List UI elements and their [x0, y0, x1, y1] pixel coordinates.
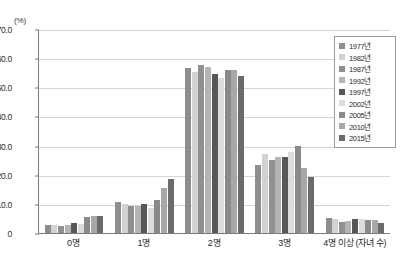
bar [365, 220, 371, 233]
y-axis-tick-label: 40.0 [0, 112, 12, 122]
legend-swatch-icon [339, 54, 345, 60]
legend-item[interactable]: 2010년 [339, 121, 393, 133]
legend-item-label: 1987년 [349, 63, 371, 74]
bar [205, 67, 211, 233]
bar [212, 74, 218, 233]
legend-item[interactable]: 2005년 [339, 109, 393, 121]
y-axis-tick-label: 30.0 [0, 142, 12, 152]
legend-swatch-icon [339, 112, 345, 118]
bar [288, 152, 294, 233]
legend-item-label: 2005년 [349, 109, 371, 120]
bar [84, 217, 90, 233]
x-axis-tick-label: 3명 [249, 236, 319, 249]
bar [45, 225, 51, 233]
x-axis-tick-label: 2명 [179, 236, 249, 249]
bar-chart: (%) 0명1명2명3명4명 이상 (자녀 수) 1977년1982년1987년… [0, 0, 406, 269]
bar [225, 70, 231, 233]
bar [231, 70, 237, 233]
bar [326, 218, 332, 233]
bar [115, 202, 121, 233]
legend: 1977년1982년1987년1992년1997년2002년2005년2010년… [334, 36, 396, 148]
bar [372, 220, 378, 233]
x-axis-tick-label: 0명 [38, 236, 108, 249]
legend-swatch-icon [339, 123, 345, 129]
bar [269, 160, 275, 233]
bar [185, 68, 191, 233]
legend-swatch-icon [339, 77, 345, 83]
bar [238, 76, 244, 233]
legend-swatch-icon [339, 66, 345, 72]
bar [301, 168, 307, 233]
bar [339, 222, 345, 233]
bar [262, 154, 268, 233]
legend-item[interactable]: 1997년 [339, 86, 393, 98]
x-axis-tick-label: 1명 [108, 236, 178, 249]
legend-swatch-icon [339, 100, 345, 106]
bar [378, 223, 384, 233]
y-axis-tick-label: 20.0 [0, 171, 12, 181]
y-axis-unit-label: (%) [14, 16, 26, 25]
bar [128, 206, 134, 233]
bar [51, 225, 57, 233]
legend-swatch-icon [339, 89, 345, 95]
legend-item[interactable]: 1992년 [339, 75, 393, 87]
bar [295, 146, 301, 233]
y-axis-tick-mark [35, 146, 39, 147]
bar [161, 188, 167, 233]
y-axis-tick-label: 70.0 [0, 25, 12, 35]
legend-item-label: 1977년 [349, 40, 371, 51]
legend-item[interactable]: 1977년 [339, 40, 393, 52]
y-axis-tick-mark [35, 30, 39, 31]
legend-item[interactable]: 1987년 [339, 63, 393, 75]
bar [345, 221, 351, 233]
legend-swatch-icon [339, 43, 345, 49]
bar [58, 226, 64, 233]
bar [168, 179, 174, 233]
y-axis-tick-mark [35, 175, 39, 176]
bar [198, 65, 204, 233]
legend-item-label: 1992년 [349, 75, 371, 86]
bar [141, 204, 147, 233]
bar [71, 223, 77, 233]
x-axis-tick-label: 4명 이상 (자녀 수) [320, 236, 390, 249]
bar [282, 157, 288, 233]
bar [91, 216, 97, 233]
legend-item-label: 2010년 [349, 121, 371, 132]
x-axis-tick-label-text: 4명 이상 [323, 238, 353, 248]
legend-item[interactable]: 1982년 [339, 52, 393, 64]
y-axis-tick-label: 60.0 [0, 54, 12, 64]
legend-item-label: 1982년 [349, 52, 371, 63]
y-axis-tick-label: 0 [0, 229, 12, 239]
x-axis-title: (자녀 수) [353, 238, 386, 248]
bar [135, 206, 141, 233]
bar [308, 177, 314, 233]
y-axis-tick-mark [35, 204, 39, 205]
bar [352, 219, 358, 233]
bar [255, 165, 261, 233]
legend-item-label: 2015년 [349, 132, 371, 143]
legend-item-label: 1997년 [349, 86, 371, 97]
legend-item-label: 2002년 [349, 98, 371, 109]
y-axis-tick-mark [35, 59, 39, 60]
bar [332, 219, 338, 233]
bar [148, 208, 154, 233]
bar [122, 204, 128, 233]
bar [65, 225, 71, 233]
bar [359, 219, 365, 233]
x-axis-labels: 0명1명2명3명4명 이상 (자녀 수) [38, 236, 390, 249]
bar-group [109, 30, 179, 233]
y-axis-tick-mark [35, 234, 39, 235]
y-axis-tick-mark [35, 117, 39, 118]
y-axis-tick-label: 50.0 [0, 83, 12, 93]
legend-item[interactable]: 2002년 [339, 98, 393, 110]
bar [218, 78, 224, 233]
bar [192, 72, 198, 233]
legend-item[interactable]: 2015년 [339, 132, 393, 144]
bar [78, 224, 84, 233]
bar-group [39, 30, 109, 233]
y-axis-tick-mark [35, 88, 39, 89]
bar-group [250, 30, 320, 233]
y-axis-tick-label: 10.0 [0, 200, 12, 210]
bar [275, 157, 281, 233]
bar [154, 200, 160, 233]
